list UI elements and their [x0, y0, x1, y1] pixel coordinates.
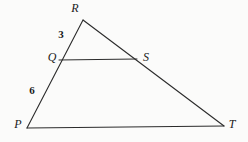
segment-PR	[27, 20, 83, 128]
inner-segment-group	[59, 59, 137, 60]
length-label-RQ: 3	[58, 29, 64, 40]
segment-PT	[27, 126, 224, 128]
geometry-figure: R Q S P T 3 6	[0, 0, 248, 142]
vertex-label-P: P	[14, 118, 21, 130]
triangle-outline	[27, 20, 224, 128]
length-label-QP: 6	[29, 85, 35, 96]
figure-canvas	[0, 0, 248, 142]
segment-RT	[83, 20, 224, 126]
segment-QS	[59, 59, 137, 60]
vertex-label-R: R	[71, 2, 78, 14]
vertex-label-T: T	[229, 118, 236, 130]
vertex-label-Q: Q	[48, 51, 57, 63]
vertex-label-S: S	[143, 51, 149, 63]
